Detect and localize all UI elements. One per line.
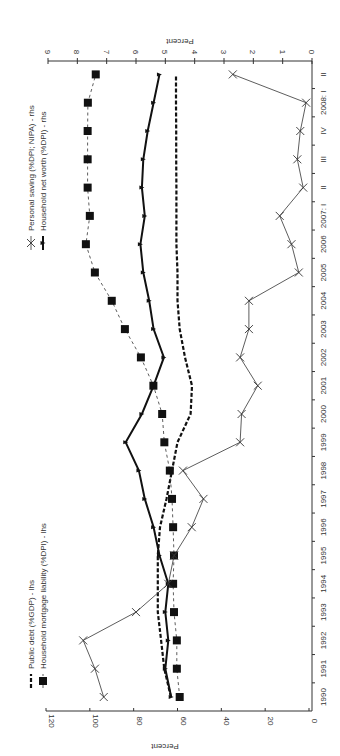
legend-item-mortgage-liability: Household mortgage liability (%DPI) - lh… xyxy=(39,523,48,688)
personal-saving-marker-x xyxy=(188,523,196,531)
legend: Public debt (%GDP) - lhsHousehold mortga… xyxy=(27,105,48,688)
right-axis-tick-label: 1 xyxy=(278,50,287,55)
category-tick-label: 1991 xyxy=(319,659,328,677)
category-tick-label: 2003 xyxy=(319,320,328,338)
mortgage-liability-marker-square xyxy=(169,523,177,531)
category-tick-label: 1990 xyxy=(319,688,328,706)
mortgage-liability-marker-square xyxy=(158,410,166,418)
personal-saving-marker-x xyxy=(229,70,237,78)
right-axis-tick-label: 2 xyxy=(248,50,257,55)
category-tick-label: 2006 xyxy=(319,235,328,253)
mortgage-liability-marker-square xyxy=(84,127,92,135)
legend-label: Public debt (%GDP) - lhs xyxy=(27,580,36,669)
category-tick-label: 2002 xyxy=(319,348,328,366)
category-tick-label: 2005 xyxy=(319,263,328,281)
legend-label: Personal saving (%DPI; NIPA) - rhs xyxy=(27,105,36,231)
category-tick-label: 1994 xyxy=(319,574,328,592)
personal-saving-marker-x xyxy=(287,240,295,248)
right-axis-title: Percent xyxy=(165,37,193,46)
left-axis-tick-label: 100 xyxy=(91,714,100,728)
right-axis-tick-label: 3 xyxy=(219,50,228,55)
series-personal-saving xyxy=(79,70,310,701)
left-axis-tick-label: 20 xyxy=(266,717,275,726)
category-tick-label: 1993 xyxy=(319,603,328,621)
personal-saving-marker-x xyxy=(100,693,108,701)
personal-saving-marker-x xyxy=(79,636,87,644)
category-tick-label: 2001 xyxy=(319,376,328,394)
mortgage-liability-marker-square xyxy=(121,325,129,333)
left-axis-tick-label: 60 xyxy=(179,717,188,726)
right-axis-tick-label: 5 xyxy=(160,50,169,55)
mortgage-liability-marker-square xyxy=(84,99,92,107)
chart: 1990199119921993199419951996199719981999… xyxy=(0,0,340,756)
legend-item-public-debt: Public debt (%GDP) - lhs xyxy=(27,580,36,688)
personal-saving-marker-x xyxy=(254,382,262,390)
legend-marker-square xyxy=(39,677,47,685)
category-tick-label: 2000 xyxy=(319,405,328,423)
mortgage-liability-marker-square xyxy=(173,636,181,644)
mortgage-liability-marker-square xyxy=(166,467,174,475)
left-axis-tick-label: 80 xyxy=(135,717,144,726)
category-tick-label: 1995 xyxy=(319,546,328,564)
public-debt-line xyxy=(158,74,192,697)
series-public-debt xyxy=(158,74,192,697)
right-axis-tick-label: 0 xyxy=(307,50,316,55)
category-tick-label: III xyxy=(319,156,328,163)
personal-saving-marker-x xyxy=(236,353,244,361)
category-tick-label: IV xyxy=(319,127,328,135)
mortgage-liability-marker-square xyxy=(169,580,177,588)
category-tick-label: 1992 xyxy=(319,631,328,649)
mortgage-liability-marker-square xyxy=(84,155,92,163)
right-axis-tick-label: 9 xyxy=(43,50,52,55)
personal-saving-marker-x xyxy=(91,665,99,673)
mortgage-liability-marker-square xyxy=(84,184,92,192)
axes: 1990199119921993199419951996199719981999… xyxy=(43,37,328,751)
legend-item-net-worth: Household net worth (%DPI) - rhs xyxy=(39,111,48,250)
mortgage-liability-marker-square xyxy=(91,269,99,277)
net-worth-line xyxy=(126,74,172,697)
mortgage-liability-marker-square xyxy=(137,353,145,361)
category-tick-label: II xyxy=(319,185,328,189)
left-axis-tick-label: 120 xyxy=(47,714,56,728)
right-axis-tick-label: 7 xyxy=(102,50,111,55)
left-axis-tick-label: 0 xyxy=(310,719,319,724)
personal-saving-marker-x xyxy=(295,269,303,277)
right-axis-tick-label: 4 xyxy=(190,50,199,55)
mortgage-liability-marker-square xyxy=(168,495,176,503)
series-mortgage-liability xyxy=(82,70,184,701)
category-tick-label: 1996 xyxy=(319,518,328,536)
personal-saving-line xyxy=(83,74,306,697)
category-tick-label: 2004 xyxy=(319,291,328,309)
right-axis-tick-label: 8 xyxy=(72,50,81,55)
mortgage-liability-marker-square xyxy=(173,665,181,673)
category-tick-label: 1997 xyxy=(319,489,328,507)
category-tick-label: 1999 xyxy=(319,433,328,451)
mortgage-liability-marker-square xyxy=(170,608,178,616)
mortgage-liability-marker-square xyxy=(176,693,184,701)
personal-saving-marker-x xyxy=(299,184,307,192)
legend-label: Household mortgage liability (%DPI) - lh… xyxy=(39,523,48,669)
left-axis-title: Percent xyxy=(150,742,178,751)
legend-label: Household net worth (%DPI) - rhs xyxy=(39,111,48,231)
personal-saving-marker-x xyxy=(132,608,140,616)
mortgage-liability-marker-square xyxy=(86,212,94,220)
left-axis-tick-label: 40 xyxy=(222,717,231,726)
mortgage-liability-marker-square xyxy=(149,382,157,390)
category-tick-label: 2008: I xyxy=(319,90,328,114)
personal-saving-marker-x xyxy=(302,99,310,107)
mortgage-liability-marker-square xyxy=(92,70,100,78)
category-tick-label: 1998 xyxy=(319,461,328,479)
category-tick-label: II xyxy=(319,72,328,76)
personal-saving-marker-x xyxy=(179,467,187,475)
right-axis-tick-label: 6 xyxy=(131,50,140,55)
category-tick-label: 2007: I xyxy=(319,204,328,228)
legend-item-personal-saving: Personal saving (%DPI; NIPA) - rhs xyxy=(27,105,36,250)
series-layer xyxy=(79,70,310,701)
series-net-worth xyxy=(123,72,173,699)
mortgage-liability-marker-square xyxy=(160,438,168,446)
personal-saving-marker-x xyxy=(199,495,207,503)
personal-saving-marker-x xyxy=(276,212,284,220)
mortgage-liability-marker-square xyxy=(82,240,90,248)
mortgage-liability-marker-square xyxy=(108,297,116,305)
